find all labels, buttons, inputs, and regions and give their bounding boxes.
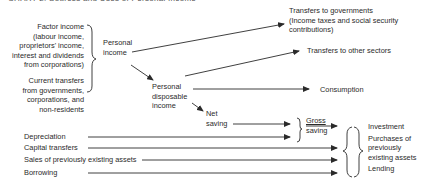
transfers-to-governments-label: Transfers to governments (Income taxes a… bbox=[289, 6, 398, 35]
personal-income-node: Personal income bbox=[103, 38, 132, 57]
net-saving-node: Net saving bbox=[206, 109, 227, 128]
capital-source-sales-of-assets: Sales of previously existing assets bbox=[24, 155, 137, 165]
consumption-label: Consumption bbox=[320, 85, 364, 95]
capital-source-depreciation: Depreciation bbox=[24, 132, 66, 142]
sources-brace bbox=[87, 25, 96, 92]
gross-saving-node: Gross saving bbox=[306, 116, 327, 135]
factor-income-label: Factor income (labour income, proprietor… bbox=[4, 22, 84, 70]
current-transfers-label: Current transfers from governments, corp… bbox=[4, 76, 84, 114]
capital-uses-label: Investment Purchases of previously exist… bbox=[368, 122, 416, 174]
transfers-to-other-sectors-label: Transfers to other sectors bbox=[307, 46, 391, 56]
uses-brace-left bbox=[343, 127, 352, 177]
capital-source-capital-transfers: Capital transfers bbox=[24, 143, 78, 153]
capital-source-borrowing: Borrowing bbox=[24, 168, 57, 178]
uses-brace-right bbox=[354, 127, 363, 177]
personal-disposable-income-node: Personal disposable income bbox=[152, 82, 187, 111]
gross-saving-brace bbox=[297, 118, 302, 142]
